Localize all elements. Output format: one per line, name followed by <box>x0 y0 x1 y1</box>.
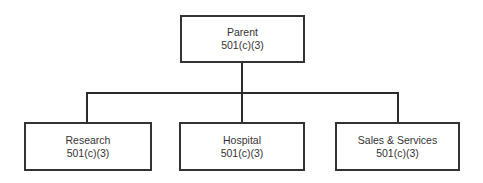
connector-sales-services <box>397 92 399 123</box>
research-node-name: Research <box>66 134 111 147</box>
research-node: Research 501(c)(3) <box>24 122 152 171</box>
parent-node-name: Parent <box>227 26 258 39</box>
connector-parent-down <box>241 62 243 93</box>
sales-services-node-name: Sales & Services <box>358 134 437 147</box>
hospital-node-status: 501(c)(3) <box>221 147 264 160</box>
sales-services-node: Sales & Services 501(c)(3) <box>335 122 460 171</box>
parent-node-status: 501(c)(3) <box>221 39 264 52</box>
connector-hospital <box>241 92 243 123</box>
connector-research <box>86 92 88 123</box>
parent-node: Parent 501(c)(3) <box>180 15 305 63</box>
research-node-status: 501(c)(3) <box>67 147 110 160</box>
hospital-node: Hospital 501(c)(3) <box>179 122 305 171</box>
sales-services-node-status: 501(c)(3) <box>376 147 419 160</box>
hospital-node-name: Hospital <box>223 134 261 147</box>
